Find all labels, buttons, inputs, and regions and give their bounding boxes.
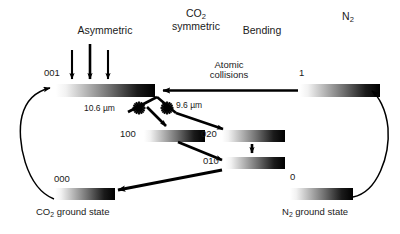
bar-n2-ground	[290, 188, 353, 200]
arrow-co2-010-to-000	[118, 170, 222, 190]
bar-co2-001	[56, 84, 155, 97]
level-label-co2-000: 000	[54, 174, 70, 184]
diagram-vector-layer	[0, 0, 400, 234]
bar-n2-excited	[300, 84, 380, 97]
pump-excitation-arrows	[72, 44, 108, 79]
annotation-atomic-collisions: Atomic collisions	[196, 60, 262, 80]
header-bending: Bending	[224, 25, 300, 36]
bar-co2-010	[225, 157, 285, 169]
level-label-co2-010: 010	[203, 156, 219, 166]
photon-burst-10-6um	[133, 102, 146, 115]
header-nitrogen: N2	[320, 11, 376, 24]
energy-level-bars	[55, 84, 380, 200]
header-asymmetric: Asymmetric	[62, 25, 148, 36]
energy-level-diagram: Asymmetric CO2 symmetric Bending N2 001 …	[0, 0, 400, 234]
level-label-n2-excited: 1	[299, 68, 304, 78]
arrow-co2-000-to-001-recycle	[20, 88, 54, 199]
bar-co2-100	[144, 130, 205, 142]
label-laser-10-6um: 10.6 µm	[84, 104, 115, 113]
level-label-co2-001: 001	[44, 68, 60, 78]
caption-co2-ground-state: CO2 ground state	[36, 207, 110, 218]
level-label-co2-020: 020	[201, 129, 217, 139]
header-co2-symmetric-line1: CO2	[186, 7, 206, 19]
photon-burst-9-6um	[161, 102, 174, 115]
label-laser-9-6um: 9.6 µm	[176, 101, 202, 110]
level-label-n2-ground: 0	[290, 172, 295, 182]
bar-co2-000	[55, 188, 115, 200]
caption-n2-ground-state: N2 ground state	[282, 207, 348, 218]
header-co2-symmetric-line2: symmetric	[172, 20, 220, 32]
arrow-n2-ground-to-excited-recycle	[353, 91, 388, 197]
level-label-co2-100: 100	[120, 129, 136, 139]
bar-co2-020	[222, 130, 285, 142]
atomic-collisions-line2: collisions	[210, 69, 249, 80]
